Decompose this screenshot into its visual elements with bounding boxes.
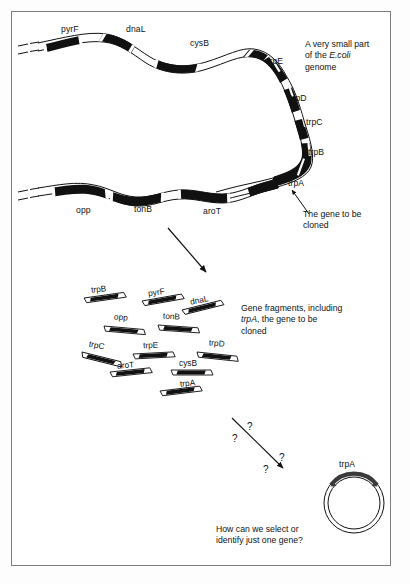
- question-note-line2: identify just one gene?: [216, 535, 361, 546]
- fragments-note-line2: trpA, the gene to be: [241, 314, 401, 325]
- genome-top-gene-blocks: [41, 20, 324, 199]
- gene-fragment-trpE: [133, 352, 175, 359]
- gene-label-trpC: trpC: [306, 117, 323, 127]
- gene-label-tonB: tonB: [134, 204, 152, 214]
- fragments-note-rest: , the gene to be: [257, 314, 317, 324]
- question-note: How can we select or identify just one g…: [216, 524, 361, 547]
- gene-label-trpA: trpA: [288, 178, 304, 188]
- gene-label-trpB: trpB: [308, 147, 324, 157]
- gene-label-aroT: aroT: [203, 206, 221, 216]
- fragment-label-aroT: aroT: [117, 359, 135, 370]
- figure-canvas: pyrF dnaL cysB trpE trpD trpC trpB trpA …: [0, 0, 410, 584]
- gene-fragment-trpB: [84, 292, 126, 303]
- figure-vector-layer: [0, 0, 410, 584]
- fragments-note: Gene fragments, including trpA, the gene…: [241, 303, 401, 337]
- fragment-label-trpD: trpD: [209, 337, 225, 348]
- cloned-gene-note: The gene to be cloned: [303, 209, 398, 232]
- fragments-note-line3: cloned: [241, 326, 401, 337]
- fragment-label-trpE: trpE: [143, 340, 159, 351]
- fragment-label-tonB: tonB: [163, 311, 181, 322]
- gene-fragment-cysB: [171, 370, 213, 375]
- gene-label-trpE: trpE: [267, 56, 283, 66]
- gene-label-trpD: trpD: [290, 93, 307, 103]
- cloned-gene-note-line2: cloned: [303, 220, 398, 231]
- genome-note-line3: genome: [305, 62, 400, 73]
- genome-note-line2: of the E.coli: [305, 50, 400, 61]
- fragments-note-gene: trpA: [241, 314, 257, 324]
- gene-label-opp: opp: [76, 205, 91, 215]
- gene-fragment-trpD: [196, 352, 238, 361]
- question-mark-4: ?: [263, 464, 269, 475]
- fragment-label-trpA: trpA: [180, 377, 196, 388]
- fragments-note-line1: Gene fragments, including: [241, 303, 401, 314]
- fragmentation-arrow: [168, 228, 206, 272]
- genome-note-prefix: of the: [305, 50, 329, 60]
- plasmid-label-trpA: trpA: [339, 459, 355, 469]
- question-mark-3: ?: [279, 452, 285, 463]
- genome-note: A very small part of the E.coli genome: [305, 39, 400, 73]
- fragment-label-cysB: cysB: [179, 358, 197, 368]
- genome-note-species: E.coli: [329, 50, 350, 60]
- gene-label-pyrF: pyrF: [61, 24, 79, 34]
- question-arrow: [232, 418, 283, 468]
- cloned-gene-note-line1: The gene to be: [303, 209, 398, 220]
- genome-note-line1: A very small part: [305, 39, 400, 50]
- gene-label-cysB: cysB: [190, 38, 209, 48]
- question-mark-2: ?: [232, 433, 238, 444]
- question-note-line1: How can we select or: [216, 524, 361, 535]
- gene-label-dnaL: dnaL: [126, 24, 146, 34]
- fragment-label-opp: opp: [114, 312, 129, 323]
- gene-fragment-tonB: [158, 325, 200, 333]
- question-mark-1: ?: [247, 421, 253, 432]
- fragment-label-trpB: trpB: [90, 283, 106, 295]
- gene-fragment-opp: [104, 326, 146, 335]
